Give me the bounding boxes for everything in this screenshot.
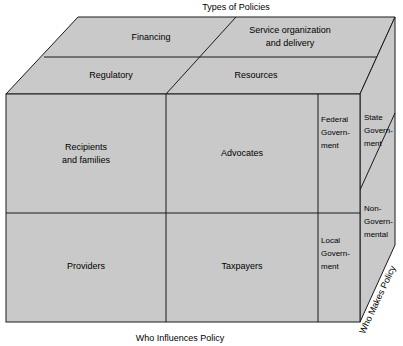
top-front-left-label: Regulatory bbox=[89, 70, 133, 80]
front-face-panel bbox=[6, 94, 360, 322]
front-quadrant-recipients-line2: and families bbox=[62, 155, 111, 165]
front-face-group: Recipients and families Advocates Provid… bbox=[6, 94, 360, 322]
front-quadrant-taxpayers-line1: Taxpayers bbox=[221, 261, 263, 271]
front-side-local-line3: ment bbox=[321, 262, 340, 271]
front-quadrant-advocates-line1: Advocates bbox=[221, 148, 264, 158]
top-face-group: Financing Service organization and deliv… bbox=[6, 17, 395, 94]
policy-cube-diagram: Financing Service organization and deliv… bbox=[0, 0, 403, 346]
right-panel-state-line1: State bbox=[364, 113, 383, 122]
front-side-federal-line3: ment bbox=[321, 141, 340, 150]
top-front-right-label: Resources bbox=[234, 70, 278, 80]
front-side-federal-line1: Federal bbox=[321, 115, 348, 124]
right-panel-nongov-line3: mental bbox=[364, 230, 388, 239]
front-quadrant-recipients-line1: Recipients bbox=[65, 142, 108, 152]
right-panel-state-line3: ment bbox=[364, 139, 383, 148]
front-quadrant-providers-line1: Providers bbox=[67, 261, 106, 271]
top-back-right-label-line2: and delivery bbox=[266, 38, 315, 48]
front-side-federal-line2: Govern- bbox=[321, 128, 350, 137]
top-back-right-label-line1: Service organization bbox=[249, 25, 331, 35]
front-side-local-line2: Govern- bbox=[321, 249, 350, 258]
right-panel-nongov-line1: Non- bbox=[364, 204, 382, 213]
title-who-influences-policy: Who Influences Policy bbox=[136, 333, 225, 343]
title-types-of-policies: Types of Policies bbox=[202, 2, 270, 12]
right-panel-nongov-line2: Govern- bbox=[364, 217, 393, 226]
front-side-local-line1: Local bbox=[321, 236, 340, 245]
top-back-left-label: Financing bbox=[131, 32, 170, 42]
right-panel-state-line2: Govern- bbox=[364, 126, 393, 135]
